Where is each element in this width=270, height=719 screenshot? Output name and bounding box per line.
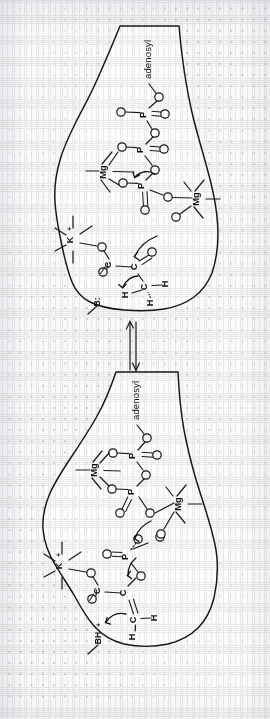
double-bond [112, 552, 122, 553]
mg-coordination-bond [104, 471, 120, 472]
hydrogen-label-lower-2: H [127, 633, 137, 640]
adenosyl-label-lower: adenosyl [130, 381, 141, 420]
oxygen-atom [142, 471, 150, 479]
enol-carbon-label-lower: C [118, 589, 128, 596]
oxygen-atom [109, 449, 117, 457]
double-bond [112, 556, 122, 557]
base-label-lower: BH [93, 632, 103, 644]
oxygen-atom [116, 509, 124, 517]
oxygen-atom [146, 509, 154, 517]
k-coordination-bond [44, 571, 55, 577]
potassium-label-lower: K [54, 562, 64, 569]
carboxyl-carbon-label-lower: C [92, 587, 102, 594]
double-bond [96, 590, 97, 596]
oxygen-atom [157, 530, 165, 538]
oxygen-atom [137, 572, 145, 580]
lower-panel-artwork: adenosyl P P P Mg [0, 0, 270, 719]
oxygen-atom [103, 550, 111, 558]
base-tether-lower [88, 645, 98, 654]
oxygen-atom [87, 569, 95, 577]
base-charge-lower: + [95, 623, 102, 627]
potassium-charge-lower: + [55, 553, 62, 557]
bond [116, 489, 128, 490]
c-h-bond [141, 618, 151, 619]
bond [117, 453, 129, 454]
figure-canvas: adenosyl P P P Mg [0, 0, 270, 719]
oxygen-atom [143, 434, 151, 442]
methylene-carbon-label-lower: C [128, 616, 138, 623]
oxygen-atom [153, 451, 161, 459]
